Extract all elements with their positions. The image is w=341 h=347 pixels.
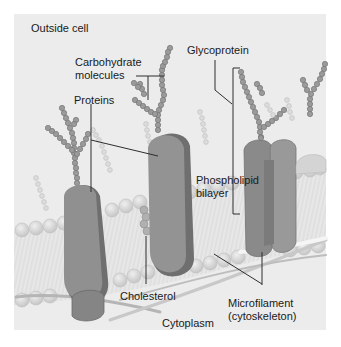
label-cytoplasm: Cytoplasm <box>162 317 214 329</box>
protein-channel <box>244 136 296 257</box>
label-carbohydrate-line1: Carbohydrate <box>75 56 142 68</box>
label-microfilament-line1: Microfilament <box>228 297 293 309</box>
label-glycoprotein: Glycoprotein <box>187 44 249 56</box>
label-proteins: Proteins <box>74 94 114 106</box>
label-carbohydrate-line2: molecules <box>75 69 125 81</box>
label-phospholipid-line1: Phospholipid <box>196 174 259 186</box>
label-cholesterol: Cholesterol <box>120 290 176 302</box>
label-phospholipid-line2: bilayer <box>196 187 228 199</box>
protein-left <box>64 185 108 321</box>
label-outside-cell: Outside cell <box>31 22 88 34</box>
label-microfilament-line2: (cytoskeleton) <box>228 310 296 322</box>
peripheral-protein <box>296 155 326 174</box>
